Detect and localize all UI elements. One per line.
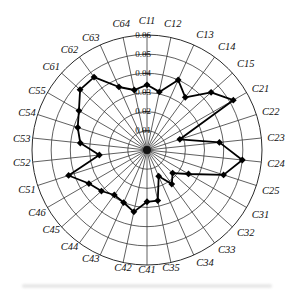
category-label: C35 [162,262,180,273]
category-label: C33 [218,244,236,255]
category-label: C51 [18,184,36,195]
radar-spoke [147,150,194,255]
data-point-marker [182,94,189,101]
data-point-marker [74,124,81,131]
data-point-marker [185,171,192,178]
data-point-marker [116,84,123,91]
category-label: C12 [164,18,182,29]
category-label: C53 [13,133,31,144]
radar-spoke [147,150,256,186]
radar-chart-figure: 0.010.020.030.040.050.06C11C12C13C14C15C… [0,0,293,293]
radar-spoke [147,115,256,151]
category-label: C23 [267,132,285,143]
data-point-marker [76,107,83,114]
radial-axis-tick-label: 0.06 [135,30,151,40]
category-label: C45 [43,224,61,235]
scan-artifact [22,284,272,288]
category-label: C21 [252,83,270,94]
category-label: C13 [196,29,214,40]
category-label: C63 [82,32,100,43]
radar-spoke [147,150,233,227]
radial-axis-tick-label: 0.02 [135,106,151,116]
category-label: C32 [237,227,255,238]
category-label: C24 [267,158,285,169]
radar-spoke [38,115,147,151]
category-label: C44 [61,241,79,252]
radar-spoke [38,150,147,186]
radar-spoke [62,150,148,227]
radar-spoke [147,73,233,150]
category-label: C22 [262,106,280,117]
category-label: C34 [196,257,214,268]
center-dot [143,146,151,154]
category-label: C25 [262,185,280,196]
radial-axis-tick-label: 0.05 [135,49,151,59]
category-label: C15 [237,58,255,69]
category-label: C31 [252,209,270,220]
radar-spoke [62,73,148,150]
data-point-marker [154,197,161,204]
category-label: C52 [13,157,31,168]
category-label: C61 [43,61,61,72]
category-label: C46 [28,207,46,218]
radar-chart-svg: 0.010.020.030.040.050.06C11C12C13C14C15C… [0,0,293,293]
radial-axis-tick-label: 0.01 [135,125,151,135]
category-label: C64 [112,18,130,29]
radial-axis-tick-label: 0.04 [135,68,151,78]
category-label: C54 [18,107,36,118]
category-label: C41 [138,264,156,275]
category-label: C43 [82,253,100,264]
category-label: C14 [218,41,236,52]
category-label: C11 [139,15,156,26]
category-label: C55 [28,85,46,96]
category-label: C42 [114,262,132,273]
category-label: C62 [61,44,79,55]
